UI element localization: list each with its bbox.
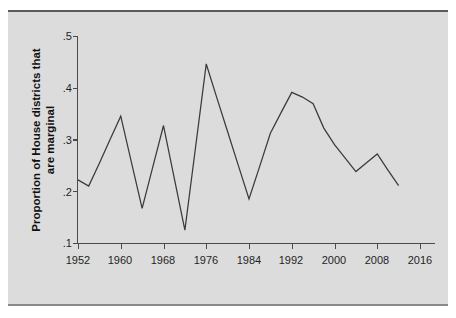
data-series-line xyxy=(78,64,399,230)
x-tick-label-1952: 1952 xyxy=(66,254,90,266)
x-tick-label-1984: 1984 xyxy=(237,254,261,266)
y-tick-label-3: .3 xyxy=(63,134,72,146)
x-tick-label-2000: 2000 xyxy=(322,254,346,266)
y-tick-label-group: .5 .4 .3 .2 .1 xyxy=(63,30,72,249)
y-tick-label-4: .4 xyxy=(63,82,72,94)
x-tick-label-group: 1952 1960 1968 1976 1984 1992 2000 2008 … xyxy=(66,254,432,266)
y-tick-label-2: .2 xyxy=(63,186,72,198)
x-tick-marks xyxy=(79,244,421,250)
y-axis-title-line2: are marginal xyxy=(44,106,56,174)
x-tick-label-2008: 2008 xyxy=(365,254,389,266)
x-tick-label-1992: 1992 xyxy=(279,254,303,266)
line-chart-svg: .5 .4 .3 .2 .1 1952 1960 1968 1976 1984 … xyxy=(0,0,456,318)
y-axis-title: Proportion of House districts that are m… xyxy=(30,48,56,232)
x-tick-label-1968: 1968 xyxy=(151,254,175,266)
chart-figure: .5 .4 .3 .2 .1 1952 1960 1968 1976 1984 … xyxy=(0,0,456,318)
x-tick-label-1976: 1976 xyxy=(194,254,218,266)
y-tick-label-5: .5 xyxy=(63,30,72,42)
y-tick-label-1: .1 xyxy=(63,237,72,249)
y-tick-marks xyxy=(73,37,78,244)
x-tick-label-2016: 2016 xyxy=(408,254,432,266)
y-axis-title-line1: Proportion of House districts that xyxy=(30,48,42,232)
x-tick-label-1960: 1960 xyxy=(108,254,132,266)
